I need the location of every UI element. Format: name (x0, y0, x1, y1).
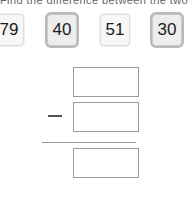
minus-operator-icon (48, 115, 62, 117)
number-tile-40-label: 40 (53, 21, 72, 39)
instruction-text: Find the difference between the two numb… (0, 0, 192, 9)
number-tile-30-label: 30 (158, 21, 177, 39)
subtrahend-input-box[interactable] (73, 102, 139, 132)
subtraction-rule-line (42, 142, 136, 143)
number-tile-79-label: 79 (0, 21, 18, 39)
number-tile-51-label: 51 (106, 21, 125, 39)
subtraction-work-area (0, 55, 192, 199)
instruction-strip: Find the difference between the two numb… (0, 0, 192, 9)
result-input-box[interactable] (73, 148, 139, 178)
number-tile-30[interactable]: 30 (152, 14, 182, 46)
math-worksheet-app: Find the difference between the two numb… (0, 0, 192, 199)
number-tile-51[interactable]: 51 (100, 14, 130, 46)
minuend-input-box[interactable] (73, 67, 139, 97)
number-tile-row: 79 40 51 30 (0, 14, 192, 48)
number-tile-79[interactable]: 79 (0, 14, 24, 46)
number-tile-40[interactable]: 40 (47, 14, 77, 46)
